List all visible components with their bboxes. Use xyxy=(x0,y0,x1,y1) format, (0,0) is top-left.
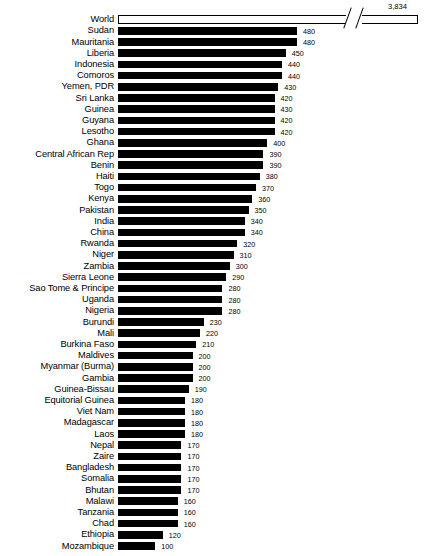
chart-row: Chad160 xyxy=(0,518,432,529)
bar xyxy=(118,229,245,237)
chart-row: Myanmar (Burma)200 xyxy=(0,361,432,372)
category-label: Togo xyxy=(0,182,114,193)
chart-row: Ghana400 xyxy=(0,137,432,148)
category-label: Sri Lanka xyxy=(0,93,114,104)
chart-row: Tanzania160 xyxy=(0,507,432,518)
bar-value-label: 160 xyxy=(184,519,196,530)
chart-row: Bhutan170 xyxy=(0,485,432,496)
category-label: Kenya xyxy=(0,193,114,204)
bar xyxy=(118,61,282,69)
bar xyxy=(118,397,185,405)
category-label: Zambia xyxy=(0,261,114,272)
chart-row: Somalia170 xyxy=(0,473,432,484)
category-label: Guinea xyxy=(0,104,114,115)
chart-row: Nigeria280 xyxy=(0,305,432,316)
category-label: Liberia xyxy=(0,48,114,59)
bar-value-label: 170 xyxy=(187,474,199,485)
bar-value-label: 350 xyxy=(255,205,267,216)
bar-value-label: 280 xyxy=(228,283,240,294)
category-label: Central African Rep xyxy=(0,149,114,160)
bar-value-label: 160 xyxy=(184,496,196,507)
bar xyxy=(118,307,222,315)
bar xyxy=(118,217,245,225)
bar xyxy=(118,139,267,147)
bar xyxy=(118,531,163,539)
bar-value-label: 210 xyxy=(202,339,214,350)
bar-value-label: 280 xyxy=(228,306,240,317)
bar-value-label: 300 xyxy=(236,261,248,272)
bar xyxy=(118,262,230,270)
chart-row: Benin390 xyxy=(0,160,432,171)
category-label: Sierra Leone xyxy=(0,272,114,283)
category-label: Chad xyxy=(0,518,114,529)
bar-value-label: 430 xyxy=(284,82,296,93)
category-label: Malawi xyxy=(0,496,114,507)
category-label: Yemen, PDR xyxy=(0,81,114,92)
chart-row: Rwanda320 xyxy=(0,238,432,249)
bar xyxy=(118,128,275,136)
bar-value-label: 170 xyxy=(187,451,199,462)
horizontal-bar-chart: World3,834Sudan480Mauritania480Liberia45… xyxy=(0,0,432,556)
bar-value-label: 430 xyxy=(281,104,293,115)
bar xyxy=(118,105,275,113)
chart-row: Viet Nam180 xyxy=(0,406,432,417)
bar xyxy=(118,363,193,371)
chart-row: Burkina Faso210 xyxy=(0,339,432,350)
bar-value-label: 200 xyxy=(199,362,211,373)
category-label: Rwanda xyxy=(0,238,114,249)
bar xyxy=(118,184,256,192)
bar-value-label: 220 xyxy=(206,328,218,339)
bar-value-label: 420 xyxy=(281,93,293,104)
bar xyxy=(118,419,185,427)
bar xyxy=(118,296,222,304)
category-label: India xyxy=(0,216,114,227)
bar-value-label: 320 xyxy=(243,239,255,250)
category-label: Burkina Faso xyxy=(0,339,114,350)
category-label: Viet Nam xyxy=(0,406,114,417)
category-label: Haiti xyxy=(0,171,114,182)
bar-value-label: 180 xyxy=(191,407,203,418)
bar-value-label: 180 xyxy=(191,395,203,406)
bar-value-label: 180 xyxy=(191,418,203,429)
chart-row: Sao Tome & Principe280 xyxy=(0,283,432,294)
chart-row: Indonesia440 xyxy=(0,59,432,70)
bar-value-label: 170 xyxy=(187,485,199,496)
bar xyxy=(118,475,181,483)
bar xyxy=(118,318,204,326)
category-label: Gambia xyxy=(0,373,114,384)
chart-row: Central African Rep390 xyxy=(0,149,432,160)
bar xyxy=(118,117,275,125)
chart-row: Niger310 xyxy=(0,249,432,260)
chart-row: Lesotho420 xyxy=(0,126,432,137)
bar-value-label: 160 xyxy=(184,507,196,518)
bar xyxy=(118,441,181,449)
bar xyxy=(118,240,237,248)
category-label: Mozambique xyxy=(0,541,114,552)
chart-row: Togo370 xyxy=(0,182,432,193)
category-label: Equitorial Guinea xyxy=(0,395,114,406)
bar-value-label: 440 xyxy=(288,71,300,82)
chart-row: China340 xyxy=(0,227,432,238)
bar-value-label: 100 xyxy=(161,541,173,552)
category-label: Guyana xyxy=(0,115,114,126)
bar xyxy=(118,352,193,360)
category-label: Uganda xyxy=(0,294,114,305)
category-label: Maldives xyxy=(0,350,114,361)
bar-value-label: 420 xyxy=(281,127,293,138)
bar-value-label: 480 xyxy=(303,26,315,37)
category-label: Madagascar xyxy=(0,417,114,428)
category-label: Sao Tome & Principe xyxy=(0,283,114,294)
category-label: Myanmar (Burma) xyxy=(0,361,114,372)
category-label: Ethiopia xyxy=(0,529,114,540)
bar xyxy=(118,385,189,393)
chart-row: World3,834 xyxy=(0,14,432,25)
bar xyxy=(118,161,263,169)
chart-row: India340 xyxy=(0,216,432,227)
category-label: Indonesia xyxy=(0,59,114,70)
category-label: China xyxy=(0,227,114,238)
bar xyxy=(118,374,193,382)
bar-value-label: 400 xyxy=(273,138,285,149)
bar xyxy=(118,195,252,203)
category-label: Sudan xyxy=(0,25,114,36)
bar-value-label: 390 xyxy=(269,160,281,171)
